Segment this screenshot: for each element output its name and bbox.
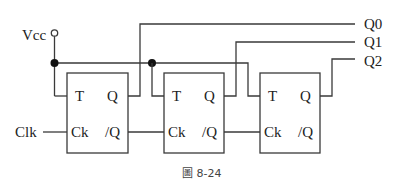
ff3-ck-pin: Ck xyxy=(264,124,282,140)
flip-flop-2-body xyxy=(164,73,224,153)
ff1-ck-pin: Ck xyxy=(71,124,89,140)
ff3-t-pin: T xyxy=(268,88,277,104)
vcc-label: Vcc xyxy=(22,27,46,43)
ff2-q-pin: Q xyxy=(204,88,215,104)
vcc-terminal-icon xyxy=(51,30,57,36)
ff2-qbar-pin: /Q xyxy=(202,124,217,140)
counter-circuit-diagram: Vcc Clk T Q Ck /Q T Q Ck /Q T Q Ck /Q Q0 xyxy=(0,0,400,191)
flip-flop-1-body xyxy=(67,73,128,153)
output-label-q1: Q1 xyxy=(364,34,382,50)
q2-output-wire xyxy=(320,59,355,96)
junction-dot-1 xyxy=(51,59,59,67)
clock-label: Clk xyxy=(15,124,37,140)
flip-flop-3-body xyxy=(260,73,320,153)
ff1-q-pin: Q xyxy=(107,88,118,104)
flip-flop-3: T Q Ck /Q xyxy=(260,73,320,153)
ff3-qbar-pin: /Q xyxy=(298,124,313,140)
output-label-q2: Q2 xyxy=(364,53,382,69)
ff3-q-pin: Q xyxy=(300,88,311,104)
ff1-qbar-pin: /Q xyxy=(105,124,120,140)
ff1-t-pin: T xyxy=(75,88,84,104)
q0-output-wire xyxy=(128,24,355,96)
ff2-t-pin: T xyxy=(172,88,181,104)
ff2-ck-pin: Ck xyxy=(168,124,186,140)
figure-caption: 圖 8-24 xyxy=(182,167,221,180)
output-label-q0: Q0 xyxy=(364,16,382,32)
flip-flop-1: T Q Ck /Q xyxy=(67,73,128,153)
flip-flop-2: T Q Ck /Q xyxy=(164,73,224,153)
t-wire-ff2 xyxy=(152,63,164,96)
